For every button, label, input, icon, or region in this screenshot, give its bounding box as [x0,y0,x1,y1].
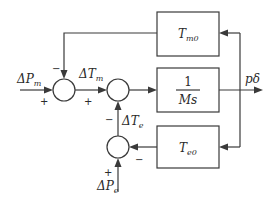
arrow-icon [61,70,68,79]
summing-junction-3 [107,136,129,158]
arrow-icon [148,87,157,94]
block-diagram: Tm0 1 Ms Te0 ΔPm ΔTm ΔTe ΔPe pδ + − + − … [0,0,275,206]
arrow-icon [115,101,122,110]
sign-sum3-right: − [135,154,143,165]
input-dpm-label: ΔPm [16,72,42,88]
tm0-feedback-line [64,33,157,73]
signal-dtm-label: ΔTm [78,67,104,83]
arrow-icon [254,87,263,94]
sign-sum2-left: + [84,96,92,107]
arrow-icon [98,87,107,94]
input-dpe-label: ΔPe [96,179,119,195]
output-label: pδ [245,72,260,86]
sign-sum1-top: − [52,63,60,74]
arrow-icon [219,144,228,151]
summing-junction-1 [53,79,75,101]
sign-sum1-left: + [40,96,48,107]
integrator-numerator: 1 [184,75,192,89]
summing-junction-2 [107,79,129,101]
integrator-denominator: Ms [178,93,197,107]
arrow-icon [129,144,138,151]
block-te0 [157,126,219,168]
sign-sum2-bottom: − [105,114,113,125]
arrow-icon [115,158,122,167]
arrow-icon [44,87,53,94]
arrow-icon [219,30,228,37]
signal-dte-label: ΔTe [121,114,144,130]
sign-sum3-bottom: + [104,167,112,178]
